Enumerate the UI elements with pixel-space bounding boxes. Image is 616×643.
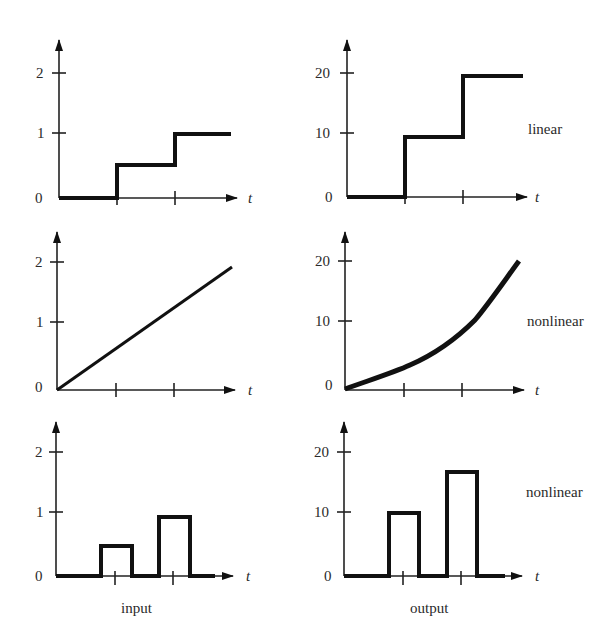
x-axis-label: t bbox=[248, 382, 253, 398]
x-axis-label: t bbox=[248, 190, 253, 206]
y-tick-20: 20 bbox=[314, 444, 329, 460]
signal-trace bbox=[345, 261, 519, 389]
system-label-linear: linear bbox=[528, 121, 562, 137]
y-tick-1: 1 bbox=[36, 504, 44, 520]
column-label-output: output bbox=[410, 600, 449, 616]
x-axis-label: t bbox=[535, 189, 540, 205]
y-tick-0: 0 bbox=[35, 379, 43, 395]
y-tick-20: 20 bbox=[315, 253, 330, 269]
y-tick-2: 2 bbox=[35, 254, 43, 270]
y-tick-10: 10 bbox=[315, 313, 330, 329]
y-tick-2: 2 bbox=[35, 444, 43, 460]
plot-row1-input bbox=[52, 40, 237, 205]
plot-row2-output bbox=[338, 232, 524, 397]
signal-trace bbox=[59, 134, 231, 198]
system-label-nonlinear: nonlinear bbox=[526, 484, 583, 500]
y-tick-1: 1 bbox=[37, 125, 45, 141]
y-tick-10: 10 bbox=[315, 125, 330, 141]
y-tick-0: 0 bbox=[35, 190, 43, 206]
y-tick-0: 0 bbox=[325, 377, 333, 393]
signal-trace bbox=[56, 517, 215, 576]
y-tick-20: 20 bbox=[315, 65, 330, 81]
plot-row3-output bbox=[337, 422, 522, 585]
signal-trace bbox=[344, 472, 505, 576]
y-tick-0: 0 bbox=[325, 189, 333, 205]
y-tick-0: 0 bbox=[324, 568, 332, 584]
plot-row2-input bbox=[50, 232, 235, 397]
system-label-nonlinear: nonlinear bbox=[527, 313, 584, 329]
plot-row3-input bbox=[49, 422, 233, 585]
y-tick-2: 2 bbox=[36, 65, 44, 81]
signal-trace bbox=[347, 76, 523, 197]
signal-trace bbox=[57, 267, 232, 390]
x-axis-label: t bbox=[535, 382, 540, 398]
x-axis-label: t bbox=[535, 568, 540, 584]
y-tick-1: 1 bbox=[36, 314, 44, 330]
y-tick-0: 0 bbox=[35, 568, 43, 584]
y-tick-10: 10 bbox=[314, 504, 329, 520]
plot-row1-output bbox=[340, 40, 527, 204]
signal-diagram: 2 1 0 t 20 10 0 t linear 2 1 0 t 20 1 bbox=[0, 0, 616, 643]
column-label-input: input bbox=[121, 600, 153, 616]
x-axis-label: t bbox=[246, 568, 251, 584]
